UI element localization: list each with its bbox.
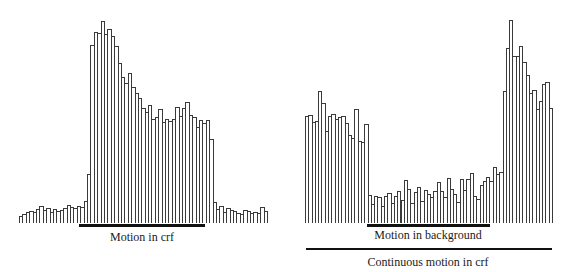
figure: Motion in crf Motion in background Conti… <box>0 0 565 272</box>
stimulus-bar-motion-in-crf <box>79 224 205 227</box>
label-continuous-motion-in-crf: Continuous motion in crf <box>368 255 489 270</box>
stimulus-bar-continuous-motion-in-crf <box>306 248 552 250</box>
histogram-bar <box>549 108 553 223</box>
histogram-bar <box>264 211 268 223</box>
histogram-motion-in-crf <box>19 0 267 223</box>
label-motion-in-crf: Motion in crf <box>110 230 174 245</box>
label-motion-in-background: Motion in background <box>374 228 481 243</box>
histogram-background-motion <box>305 0 552 223</box>
stimulus-bar-motion-in-background <box>367 224 490 227</box>
